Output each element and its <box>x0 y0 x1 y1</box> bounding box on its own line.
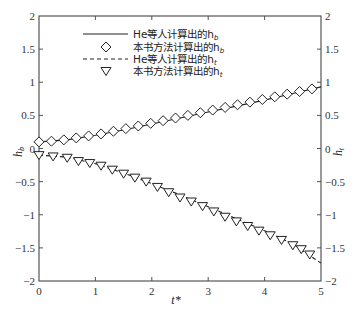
triangle-down-marker <box>220 213 230 221</box>
y-left-tick-label: −0.5 <box>15 176 35 188</box>
y-right-tick-label: 0.5 <box>325 109 339 121</box>
x-axis-label: t* <box>171 293 180 307</box>
triangle-down-marker <box>73 158 83 166</box>
series <box>34 84 317 147</box>
y-left-tick-label: −2 <box>23 275 35 287</box>
diamond-marker <box>245 97 255 107</box>
diamond-marker <box>233 100 243 110</box>
diamond-marker <box>208 105 218 115</box>
triangle-down-marker <box>243 223 253 231</box>
y-left-tick-label: 2 <box>30 10 36 22</box>
series <box>34 152 315 259</box>
y-right-tick-label: −0.5 <box>325 176 345 188</box>
triangle-down-marker <box>296 246 306 254</box>
diamond-marker <box>133 121 143 131</box>
diamond-marker <box>84 131 94 141</box>
x-tick-label: 4 <box>262 285 268 297</box>
svg-text:ht: ht <box>331 147 346 156</box>
diamond-marker <box>158 116 168 126</box>
triangle-down-marker <box>130 174 140 182</box>
triangle-down-marker <box>175 194 185 202</box>
x-tick-label: 0 <box>36 285 42 297</box>
x-tick-label: 3 <box>205 285 211 297</box>
diamond-marker <box>307 84 317 94</box>
triangle-down-marker <box>119 170 129 178</box>
x-tick-label: 1 <box>93 285 99 297</box>
diamond-marker <box>46 136 56 146</box>
triangle-down-marker <box>186 198 196 206</box>
diamond-marker <box>96 129 106 139</box>
y-right-tick-label: −2 <box>325 275 337 287</box>
triangle-down-marker <box>254 227 264 235</box>
y-right-tick-label: −1.5 <box>325 242 345 254</box>
y-left-tick-label: 0.5 <box>21 109 35 121</box>
legend-item: He等人计算出的hb <box>83 28 219 42</box>
diamond-marker <box>295 87 305 97</box>
series <box>39 155 321 263</box>
legend-label: He等人计算出的hb <box>133 28 219 42</box>
legend-item: 本书方法计算出的ht <box>101 65 223 79</box>
diamond-marker <box>101 42 111 52</box>
diamond-marker <box>183 110 193 120</box>
triangle-down-marker <box>101 68 111 76</box>
diamond-marker <box>121 124 131 134</box>
triangle-down-marker <box>209 208 219 216</box>
legend-label: 本书方法计算出的ht <box>133 65 223 79</box>
diamond-marker <box>34 137 44 147</box>
y-axis-label-left: hb <box>11 147 26 157</box>
triangle-down-marker <box>48 153 58 161</box>
diamond-marker <box>146 118 156 128</box>
triangle-down-marker <box>265 232 275 240</box>
y-left-tick-label: 1.5 <box>21 43 35 55</box>
triangle-down-marker <box>198 203 208 211</box>
legend: He等人计算出的hb本书方法计算出的hbHe等人计算出的ht本书方法计算出的ht <box>83 28 225 79</box>
dashed-line <box>39 155 321 263</box>
series-layer <box>34 84 321 263</box>
diamond-marker <box>270 92 280 102</box>
y-axis-label-right: ht <box>331 147 346 156</box>
y-right-tick-label: 1.5 <box>325 43 339 55</box>
diamond-marker <box>220 102 230 112</box>
x-tick-label: 5 <box>318 285 324 297</box>
triangle-down-marker <box>85 160 95 168</box>
y-left-tick-label: −1.5 <box>15 242 35 254</box>
diamond-marker <box>59 135 69 145</box>
chart: 01234521.510.50−0.5−1−1.5−221.510.50−0.5… <box>0 0 356 312</box>
triangle-down-marker <box>141 178 151 186</box>
diamond-marker <box>71 133 81 143</box>
triangle-down-marker <box>231 218 241 226</box>
svg-text:hb: hb <box>11 147 26 157</box>
y-right-tick-label: −1 <box>325 209 337 221</box>
diamond-marker <box>108 126 118 136</box>
triangle-down-marker <box>164 189 174 197</box>
diamond-marker <box>170 113 180 123</box>
y-left-tick-label: 1 <box>30 76 36 88</box>
diamond-marker <box>257 94 267 104</box>
y-left-tick-label: −1 <box>23 209 35 221</box>
x-tick-label: 2 <box>149 285 155 297</box>
diamond-marker <box>195 108 205 118</box>
y-right-tick-label: 2 <box>325 10 331 22</box>
diamond-marker <box>282 89 292 99</box>
y-right-tick-label: 1 <box>325 76 331 88</box>
